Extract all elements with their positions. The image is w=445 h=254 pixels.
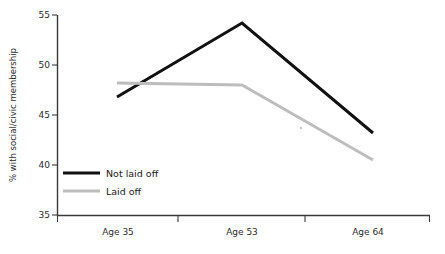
series-line-not-laid-off xyxy=(117,23,373,133)
chart-container: % with social/civic membership 55 50 45 … xyxy=(0,0,445,254)
y-tick-label-40: 40 xyxy=(39,160,51,170)
y-tick-label-55: 55 xyxy=(39,10,50,20)
y-tick-label-50: 50 xyxy=(39,60,51,70)
x-tick-label-age-35: Age 35 xyxy=(102,227,134,237)
legend-label-laid-off: Laid off xyxy=(106,186,142,197)
x-tick-label-age-53: Age 53 xyxy=(226,227,258,237)
y-axis-title: % with social/civic membership xyxy=(8,48,18,182)
y-tick-label-45: 45 xyxy=(39,110,50,120)
artifact-speck xyxy=(300,127,302,129)
series-group xyxy=(117,23,373,160)
legend-label-not-laid-off: Not laid off xyxy=(106,168,159,179)
series-line-laid-off xyxy=(117,83,373,160)
line-chart: % with social/civic membership 55 50 45 … xyxy=(0,0,445,254)
x-tick-label-age-64: Age 64 xyxy=(352,227,384,237)
y-tick-label-35: 35 xyxy=(39,210,50,220)
legend: Not laid off Laid off xyxy=(63,168,159,197)
